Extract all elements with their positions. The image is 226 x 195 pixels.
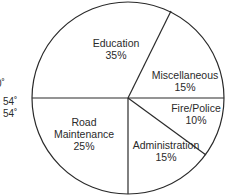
education-pct: 35% xyxy=(93,49,140,61)
misc-name: Miscellaneous xyxy=(152,69,219,81)
fire-pct: 10% xyxy=(171,114,221,126)
cropped-fragment-3: 54˚ xyxy=(3,108,17,119)
education-name: Education xyxy=(93,37,140,49)
slice-label-education: Education 35% xyxy=(93,37,140,61)
admin-name: Administration xyxy=(133,139,200,151)
cropped-fragment-2: 54˚ xyxy=(3,96,17,107)
road-line1: Road xyxy=(54,116,114,128)
slice-label-fire-police: Fire/Police 10% xyxy=(171,102,221,126)
pie-chart xyxy=(0,0,226,195)
road-line2: Maintenance xyxy=(54,128,114,140)
cropped-fragment-1: 0˚ xyxy=(0,78,5,89)
admin-pct: 15% xyxy=(133,151,200,163)
fire-name: Fire/Police xyxy=(171,102,221,114)
misc-pct: 15% xyxy=(152,81,219,93)
road-pct: 25% xyxy=(54,140,114,152)
slice-label-road-maintenance: Road Maintenance 25% xyxy=(54,116,114,152)
slice-label-administration: Administration 15% xyxy=(133,139,200,163)
slice-label-miscellaneous: Miscellaneous 15% xyxy=(152,69,219,93)
